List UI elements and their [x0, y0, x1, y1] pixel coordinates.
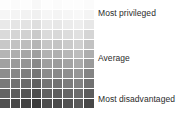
heatmap-cell	[32, 0, 42, 9]
heatmap-cell	[84, 89, 94, 98]
heatmap-cell	[84, 50, 94, 59]
heatmap-cell	[21, 89, 31, 98]
heatmap-cell	[74, 69, 84, 78]
heatmap-cell	[42, 89, 52, 98]
heatmap-cell	[0, 40, 10, 49]
heatmap-cell	[84, 99, 94, 108]
heatmap-cell	[0, 99, 10, 108]
heatmap-cell	[53, 99, 63, 108]
heatmap-cell	[21, 69, 31, 78]
heatmap-cell	[0, 10, 10, 19]
heatmap-cell	[0, 59, 10, 68]
heatmap-cell	[53, 20, 63, 29]
heatmap-cell	[11, 69, 21, 78]
heatmap-cell	[84, 30, 94, 39]
heatmap-cell	[0, 0, 10, 9]
heatmap-cell	[74, 30, 84, 39]
heatmap-cell	[53, 79, 63, 88]
heatmap-cell	[74, 89, 84, 98]
heatmap-cell	[84, 79, 94, 88]
heatmap-cell	[21, 30, 31, 39]
heatmap-cell	[74, 50, 84, 59]
heatmap-cell	[21, 99, 31, 108]
heatmap-cell	[74, 59, 84, 68]
heatmap-cell	[21, 10, 31, 19]
heatmap-cell	[21, 59, 31, 68]
heatmap-cell	[74, 79, 84, 88]
heatmap-cell	[11, 50, 21, 59]
heatmap-cell	[84, 20, 94, 29]
heatmap-cell	[11, 89, 21, 98]
heatmap-cell	[21, 0, 31, 9]
heatmap-cell	[42, 20, 52, 29]
heatmap-cell	[84, 10, 94, 19]
heatmap-cell	[0, 50, 10, 59]
heatmap-cell	[42, 59, 52, 68]
heatmap-cell	[84, 0, 94, 9]
label-most-privileged: Most privileged	[98, 8, 156, 18]
heatmap-cell	[21, 20, 31, 29]
heatmap-cell	[63, 69, 73, 78]
heatmap-cell	[0, 89, 10, 98]
heatmap-cell	[42, 99, 52, 108]
heatmap-cell	[32, 50, 42, 59]
heatmap-cell	[53, 40, 63, 49]
heatmap-figure: Most privileged Average Most disadvantag…	[0, 0, 189, 116]
heatmap-cell	[63, 10, 73, 19]
heatmap-cell	[11, 40, 21, 49]
heatmap-cell	[11, 79, 21, 88]
heatmap-cell	[11, 0, 21, 9]
heatmap-cell	[42, 69, 52, 78]
heatmap-cell	[11, 10, 21, 19]
heatmap-cell	[53, 89, 63, 98]
heatmap-cell	[32, 10, 42, 19]
heatmap-cell	[74, 20, 84, 29]
heatmap-cell	[11, 99, 21, 108]
heatmap-cell	[63, 20, 73, 29]
heatmap-cell	[0, 30, 10, 39]
heatmap-cell	[63, 89, 73, 98]
heatmap-cell	[42, 10, 52, 19]
heatmap-cell	[84, 40, 94, 49]
heatmap-cell	[53, 59, 63, 68]
label-most-disadvantaged: Most disadvantaged	[98, 94, 175, 104]
heatmap-cell	[11, 59, 21, 68]
heatmap-cell	[11, 30, 21, 39]
heatmap-cell	[42, 0, 52, 9]
heatmap-cell	[0, 79, 10, 88]
heatmap-cell	[32, 30, 42, 39]
heatmap-cell	[74, 40, 84, 49]
heatmap-cell	[42, 79, 52, 88]
heatmap-cell	[32, 20, 42, 29]
heatmap-cell	[32, 59, 42, 68]
heatmap-cell	[32, 40, 42, 49]
heatmap-cell	[32, 79, 42, 88]
heatmap-annotations: Most privileged Average Most disadvantag…	[98, 0, 189, 116]
heatmap-cell	[63, 79, 73, 88]
heatmap-cell	[53, 10, 63, 19]
heatmap-cell	[84, 69, 94, 78]
heatmap-cell	[63, 59, 73, 68]
heatmap-cell	[63, 40, 73, 49]
heatmap-cell	[53, 50, 63, 59]
heatmap-cell	[74, 10, 84, 19]
heatmap-cell	[63, 50, 73, 59]
heatmap-grid	[0, 0, 94, 108]
heatmap-cell	[32, 99, 42, 108]
heatmap-cell	[32, 89, 42, 98]
heatmap-cell	[53, 69, 63, 78]
heatmap-cell	[42, 40, 52, 49]
heatmap-cell	[42, 50, 52, 59]
heatmap-cell	[0, 69, 10, 78]
heatmap-cell	[53, 30, 63, 39]
heatmap-cell	[63, 30, 73, 39]
heatmap-cell	[53, 0, 63, 9]
heatmap-cell	[74, 0, 84, 9]
label-average: Average	[98, 53, 130, 63]
heatmap-cell	[63, 0, 73, 9]
heatmap-cell	[11, 20, 21, 29]
heatmap-cell	[21, 50, 31, 59]
heatmap-cell	[84, 59, 94, 68]
heatmap-cell	[42, 30, 52, 39]
heatmap-cell	[21, 40, 31, 49]
